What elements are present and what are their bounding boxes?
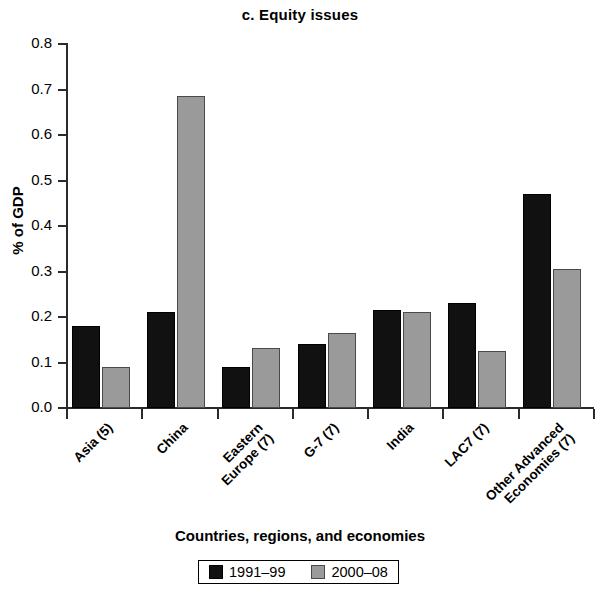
x-axis-category-labels: Asia (5)ChinaEastern Europe (7)G-7 (7)In… bbox=[0, 0, 600, 590]
legend-swatch-icon bbox=[311, 565, 325, 579]
legend-label: 1991–99 bbox=[229, 564, 285, 580]
legend-label: 2000–08 bbox=[331, 564, 387, 580]
legend-swatch-icon bbox=[209, 565, 223, 579]
legend-entry-1: 2000–08 bbox=[311, 564, 387, 580]
legend: 1991–992000–08 bbox=[198, 560, 399, 584]
equity-issues-bar-chart: c. Equity issues % of GDP 0.00.10.20.30.… bbox=[0, 0, 600, 590]
x-axis-title: Countries, regions, and economies bbox=[0, 527, 600, 544]
legend-entry-0: 1991–99 bbox=[209, 564, 285, 580]
